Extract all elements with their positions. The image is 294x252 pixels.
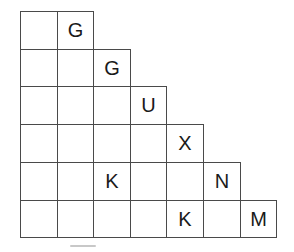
grid-cell: K: [166, 200, 204, 238]
grid-cell: X: [166, 124, 204, 163]
grid-cell: [93, 86, 131, 125]
grid-cell: [20, 11, 58, 50]
grid-cell: [130, 200, 167, 238]
grid-cell: U: [130, 86, 167, 125]
grid-cell: [130, 162, 167, 201]
grid-cell: [93, 124, 131, 163]
grid-cell: N: [203, 162, 241, 201]
scan-smudge: [70, 245, 96, 247]
grid-cell: [20, 49, 58, 87]
grid-cell: M: [240, 200, 277, 238]
grid-cell: G: [57, 11, 94, 50]
grid-cell: [57, 200, 94, 238]
grid-cell: K: [93, 162, 131, 201]
grid-cell: [57, 124, 94, 163]
grid-cell: [130, 124, 167, 163]
grid-cell: [57, 86, 94, 125]
grid-cell: [57, 162, 94, 201]
grid-cell: [57, 49, 94, 87]
grid-cell: [20, 162, 58, 201]
grid-cell: [20, 124, 58, 163]
staircase-letter-grid: GGUXKNKM: [0, 0, 294, 252]
grid-cell: [203, 200, 241, 238]
grid-cell: [20, 200, 58, 238]
grid-cell: G: [93, 49, 131, 87]
grid-cell: [20, 86, 58, 125]
grid-cell: [93, 200, 131, 238]
grid-cell: [166, 162, 204, 201]
